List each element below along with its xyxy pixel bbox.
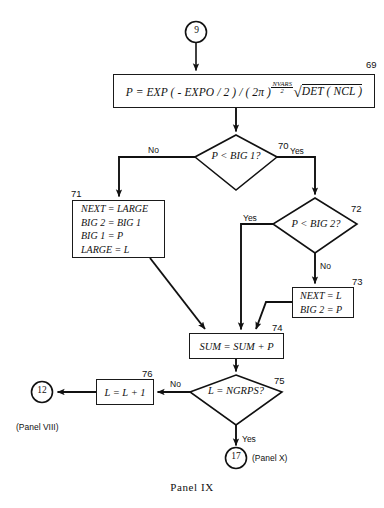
process-box-71: NEXT = LARGE BIG 2 = BIG 1 BIG 1 = P LAR…	[72, 200, 165, 258]
connector-label-9: 9	[190, 25, 203, 35]
step-number-76: 76	[142, 368, 153, 379]
branch-label-72-no: No	[320, 261, 331, 271]
step-number-70: 70	[278, 140, 289, 151]
formula-radicand: DET ( NCL )	[302, 84, 362, 97]
edge-72-yes-to-74	[241, 224, 273, 330]
decision-diamond-75	[190, 375, 282, 425]
formula-exponent-denominator: 2	[271, 88, 293, 95]
decision-diamond-70	[195, 135, 277, 190]
branch-label-75-no: No	[170, 379, 181, 389]
connector-label-12: 12	[33, 385, 51, 395]
panel-reference-x: (Panel X)	[252, 453, 287, 463]
process-74-text: SUM = SUM + P	[199, 341, 273, 352]
step-number-74: 74	[272, 322, 283, 333]
step-number-69: 69	[366, 59, 377, 70]
formula-lhs: P = EXP ( - EXPO / 2 ) / ( 2π )	[126, 86, 271, 98]
edge-70-no-to-71	[119, 157, 195, 197]
panel-reference-viii: (Panel VIII)	[16, 422, 59, 432]
process-71-line-2: BIG 2 = BIG 1	[81, 216, 164, 230]
step-number-71: 71	[71, 188, 82, 199]
process-box-69: P = EXP ( - EXPO / 2 ) / ( 2π )NVARS2√DE…	[113, 74, 375, 108]
edge-70-yes-to-72	[277, 157, 315, 195]
process-71-line-1: NEXT = LARGE	[81, 202, 164, 216]
step-number-75: 75	[274, 375, 285, 386]
formula-exponent: NVARS2	[271, 81, 293, 95]
step-number-72: 72	[351, 203, 362, 214]
branch-label-70-yes: Yes	[290, 146, 304, 156]
decision-text-72: P < BIG 2?	[277, 218, 355, 229]
process-box-73: NEXT = L BIG 2 = P	[292, 287, 354, 318]
process-box-74: SUM = SUM + P	[189, 333, 284, 359]
process-76-text: L = L + 1	[104, 387, 145, 398]
decision-text-75: L = NGRPS?	[196, 385, 276, 396]
radical-sign-icon: √	[293, 84, 301, 100]
flowchart-page: 9 12 17 P = EXP ( - EXPO / 2 ) / ( 2π )N…	[0, 0, 384, 508]
decision-text-70: P < BIG 1?	[196, 150, 276, 161]
branch-label-70-no: No	[148, 145, 159, 155]
step-number-73: 73	[352, 276, 363, 287]
edge-71-to-74	[150, 258, 205, 329]
branch-label-75-yes: Yes	[242, 434, 256, 444]
connector-label-17: 17	[227, 451, 245, 461]
process-73-line-1: NEXT = L	[300, 289, 353, 303]
process-box-76: L = L + 1	[96, 379, 154, 405]
process-71-line-4: LARGE = L	[81, 243, 164, 257]
process-73-line-2: BIG 2 = P	[300, 303, 353, 317]
process-71-line-3: BIG 1 = P	[81, 229, 164, 243]
formula-text: P = EXP ( - EXPO / 2 ) / ( 2π )NVARS2√DE…	[126, 83, 363, 100]
branch-label-72-yes: Yes	[243, 213, 257, 223]
figure-caption: Panel IX	[0, 481, 384, 493]
